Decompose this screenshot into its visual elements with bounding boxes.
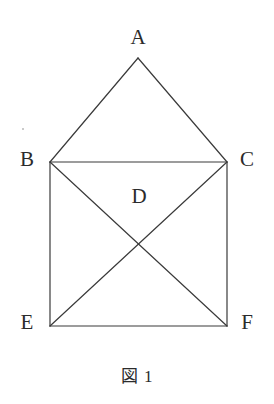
vertex-label-a: A	[116, 27, 160, 48]
figure-caption: 図 1	[0, 368, 274, 387]
scan-speck	[22, 128, 24, 130]
figure-page: A B C D E F 図 1	[0, 0, 274, 404]
vertex-label-b: B	[12, 149, 42, 170]
edge-a-c	[138, 58, 227, 162]
vertex-label-c: C	[232, 149, 262, 170]
edge-a-b	[50, 58, 138, 162]
vertex-label-e: E	[12, 312, 42, 333]
vertex-label-d: D	[127, 186, 151, 207]
vertex-label-f: F	[232, 312, 262, 333]
